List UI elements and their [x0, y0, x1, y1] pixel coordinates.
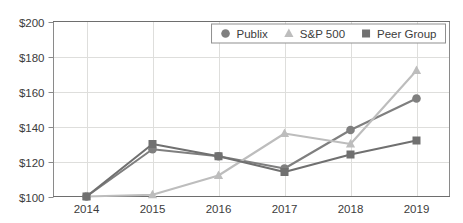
- y-tick-label-100: $100: [19, 192, 45, 204]
- x-tick-label-2017: 2017: [272, 203, 298, 215]
- x-tick-label-2016: 2016: [206, 203, 232, 215]
- data-point: [215, 152, 223, 160]
- legend-label: S&P 500: [300, 28, 345, 40]
- y-axis-tick-marks: [49, 23, 54, 198]
- x-tick-label-2015: 2015: [140, 203, 166, 215]
- series-layer: [82, 66, 421, 201]
- series-line: [87, 71, 417, 197]
- y-tick-label-160: $160: [19, 87, 45, 99]
- data-point: [149, 140, 157, 148]
- data-point: [281, 168, 289, 176]
- data-point: [347, 151, 355, 159]
- data-point: [413, 137, 421, 145]
- data-point: [280, 129, 289, 138]
- chart-legend: PublixS&P 500Peer Group: [212, 24, 446, 43]
- legend-label: Peer Group: [377, 28, 436, 40]
- x-tick-label-2019: 2019: [404, 203, 430, 215]
- data-point: [412, 66, 421, 75]
- legend-marker-circle-icon: [221, 29, 230, 38]
- chart-canvas: $100$120$140$160$180$200 201420152016201…: [0, 0, 463, 223]
- y-axis-tick-labels: $100$120$140$160$180$200: [19, 17, 45, 204]
- series-line: [87, 99, 417, 197]
- legend-marker-square-icon: [362, 30, 370, 38]
- series-line: [87, 141, 417, 197]
- data-point: [346, 126, 355, 135]
- x-tick-label-2014: 2014: [74, 203, 100, 215]
- x-axis-tick-labels: 201420152016201720182019: [74, 203, 430, 215]
- x-tick-label-2018: 2018: [338, 203, 364, 215]
- y-tick-label-200: $200: [19, 17, 45, 29]
- legend-label: Publix: [237, 28, 269, 40]
- series-s-p-500: [82, 66, 421, 201]
- data-point: [214, 171, 223, 180]
- data-point: [83, 193, 91, 201]
- y-tick-label-180: $180: [19, 52, 45, 64]
- stock-performance-chart: $100$120$140$160$180$200 201420152016201…: [0, 0, 463, 223]
- series-peer-group: [83, 137, 421, 201]
- y-tick-label-120: $120: [19, 157, 45, 169]
- y-tick-label-140: $140: [19, 122, 45, 134]
- data-point: [412, 94, 421, 103]
- series-publix: [82, 94, 421, 201]
- vertical-gridlines: [88, 22, 418, 197]
